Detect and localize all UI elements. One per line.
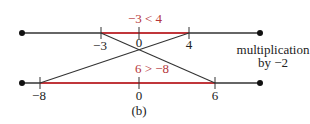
tick-label-bottom-6: 6	[212, 88, 219, 103]
tick-label-bottom-0: 0	[136, 88, 143, 103]
tick-label-top-0: 0	[136, 35, 143, 50]
bottom-right-endpoint-dot	[257, 80, 263, 86]
bottom-inequality-label: 6 > −8	[135, 61, 169, 76]
annotation-line-2: by −2	[258, 55, 288, 70]
tick-label-top-4: 4	[186, 37, 193, 52]
tick-label-bottom-neg8: −8	[32, 88, 46, 103]
top-left-endpoint-dot	[19, 30, 25, 36]
number-line-diagram: −3 < 4 −3 0 4 6 > −8 −8 0 6 multiplicati…	[0, 0, 310, 124]
top-inequality-label: −3 < 4	[128, 11, 163, 26]
figure-caption: (b)	[131, 103, 146, 118]
top-right-endpoint-dot	[257, 30, 263, 36]
bottom-left-endpoint-dot	[19, 80, 25, 86]
tick-label-top-neg3: −3	[93, 38, 107, 53]
